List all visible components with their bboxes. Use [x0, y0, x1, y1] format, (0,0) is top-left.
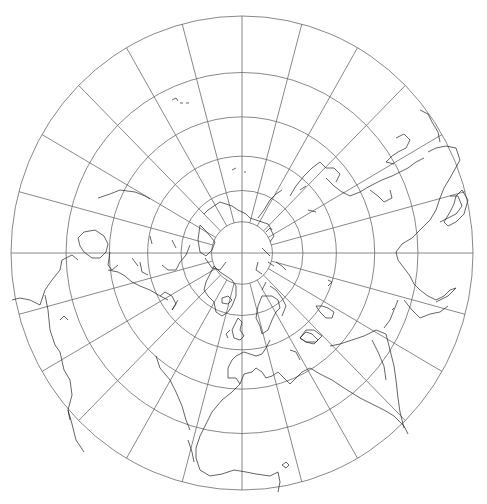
meridian-line: [264, 85, 406, 230]
map-canvas: [0, 0, 487, 504]
coastline-hudson-bay: [108, 270, 178, 310]
coastline-arabia: [330, 330, 404, 428]
meridian-line: [79, 85, 221, 230]
coastline-greenland: [204, 266, 236, 316]
coastline-japan: [444, 190, 468, 226]
coastline-arctic-islands-top: [172, 98, 316, 212]
coastline-europe: [228, 332, 318, 384]
coastline-siberian-arctic: [204, 202, 286, 274]
meridian-line: [79, 275, 221, 420]
coastline-british-isles: [226, 318, 244, 340]
coastline-asia-east: [386, 110, 462, 302]
coastline-caspian: [316, 306, 334, 318]
graticule: [11, 16, 473, 490]
polar-map: [0, 0, 487, 504]
coastline-north-america: [12, 190, 150, 420]
coastline-minor-islands: [60, 280, 394, 468]
coastline-arctic-archipelago: [132, 225, 226, 275]
coastline-india-seasia: [384, 300, 448, 328]
meridian-line: [264, 275, 406, 420]
coastline-africa: [196, 368, 408, 492]
coastline-asia-north: [258, 158, 424, 218]
